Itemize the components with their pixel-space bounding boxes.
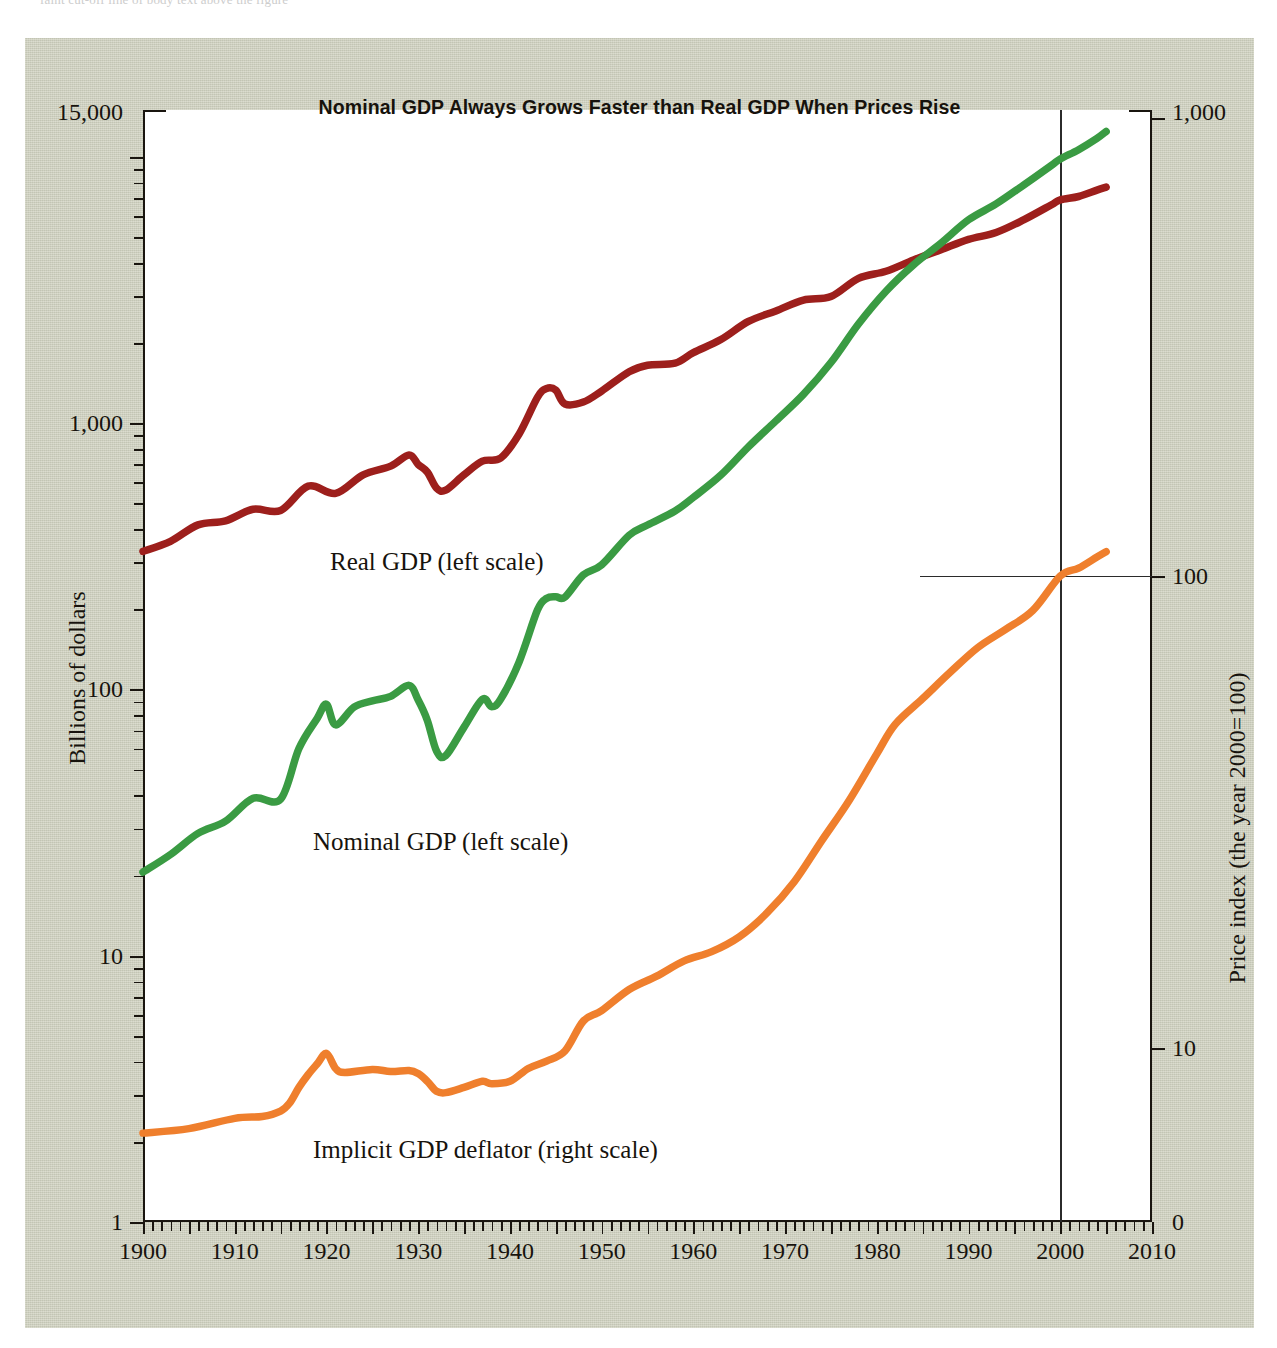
x-tick xyxy=(381,1222,383,1231)
x-tick xyxy=(923,1222,925,1234)
x-tick xyxy=(1051,1222,1053,1231)
y-tick-left xyxy=(134,1142,143,1144)
y-tick-left xyxy=(134,343,143,345)
x-tick xyxy=(620,1222,622,1231)
y-tick-left xyxy=(134,749,143,751)
y-tick-left xyxy=(134,715,143,717)
x-tick xyxy=(235,1222,237,1234)
x-axis-label: 1990 xyxy=(945,1238,993,1265)
x-tick xyxy=(978,1222,980,1231)
y-tick-right xyxy=(1152,1048,1165,1050)
x-tick xyxy=(794,1222,796,1231)
x-tick xyxy=(391,1222,393,1231)
x-tick xyxy=(253,1222,255,1231)
x-tick xyxy=(703,1222,705,1231)
x-axis-label: 2000 xyxy=(1036,1238,1084,1265)
x-tick xyxy=(849,1222,851,1231)
x-tick xyxy=(840,1222,842,1231)
x-tick xyxy=(152,1222,154,1231)
x-tick xyxy=(216,1222,218,1231)
y-tick-left xyxy=(134,702,143,704)
y-tick-left xyxy=(134,183,143,185)
x-tick xyxy=(950,1222,952,1231)
x-tick xyxy=(1106,1222,1108,1234)
y-tick-left xyxy=(134,876,143,878)
x-tick xyxy=(271,1222,273,1231)
y-tick-left xyxy=(130,689,143,691)
x-tick xyxy=(785,1222,787,1234)
x-tick xyxy=(464,1222,466,1234)
y-tick-left xyxy=(134,296,143,298)
x-tick xyxy=(1115,1222,1117,1231)
y-axis-label-right: 100 xyxy=(1172,563,1208,590)
x-tick xyxy=(574,1222,576,1231)
x-tick xyxy=(482,1222,484,1231)
x-tick xyxy=(262,1222,264,1231)
x-tick xyxy=(547,1222,549,1231)
y-axis-title-left: Billions of dollars xyxy=(64,591,91,764)
x-tick xyxy=(143,1222,145,1234)
x-tick xyxy=(446,1222,448,1231)
y-tick-left xyxy=(134,1015,143,1017)
y-tick-left xyxy=(130,956,143,958)
x-axis-label: 1960 xyxy=(669,1238,717,1265)
x-tick xyxy=(941,1222,943,1231)
x-tick xyxy=(418,1222,420,1234)
x-tick xyxy=(1060,1222,1062,1234)
y-tick-left xyxy=(134,263,143,265)
x-axis-label: 1910 xyxy=(211,1238,259,1265)
x-tick xyxy=(455,1222,457,1231)
x-tick xyxy=(602,1222,604,1234)
x-tick xyxy=(611,1222,613,1231)
x-tick xyxy=(721,1222,723,1231)
series-line-deflator xyxy=(143,552,1106,1133)
x-tick xyxy=(226,1222,228,1231)
x-tick xyxy=(1042,1222,1044,1231)
x-axis-label: 1950 xyxy=(578,1238,626,1265)
y-axis-label-right: 10 xyxy=(1172,1035,1196,1062)
x-tick xyxy=(895,1222,897,1231)
x-tick xyxy=(868,1222,870,1231)
x-tick xyxy=(345,1222,347,1231)
x-tick xyxy=(372,1222,374,1234)
x-tick xyxy=(519,1222,521,1231)
y-axis-title-right: Price index (the year 2000=100) xyxy=(1224,673,1251,984)
series-line-real-gdp xyxy=(143,187,1106,551)
x-tick xyxy=(1033,1222,1035,1231)
y-tick-left xyxy=(134,997,143,999)
x-tick xyxy=(171,1222,173,1231)
x-tick xyxy=(987,1222,989,1231)
x-tick xyxy=(583,1222,585,1231)
x-tick xyxy=(1079,1222,1081,1231)
x-tick xyxy=(1069,1222,1071,1231)
x-axis-label: 1920 xyxy=(302,1238,350,1265)
x-tick xyxy=(161,1222,163,1231)
chart-title: Nominal GDP Always Grows Faster than Rea… xyxy=(25,96,1254,119)
x-tick xyxy=(473,1222,475,1231)
x-tick xyxy=(308,1222,310,1231)
y-tick-left xyxy=(134,1036,143,1038)
x-tick xyxy=(1152,1222,1154,1234)
x-tick xyxy=(877,1222,879,1234)
x-tick xyxy=(959,1222,961,1231)
x-axis-label: 1980 xyxy=(853,1238,901,1265)
x-tick xyxy=(363,1222,365,1231)
x-tick xyxy=(1024,1222,1026,1231)
y-axis-label-left: 1 xyxy=(111,1209,123,1236)
x-tick xyxy=(510,1222,512,1234)
x-tick xyxy=(675,1222,677,1231)
x-tick xyxy=(409,1222,411,1231)
y-tick-left xyxy=(134,795,143,797)
x-tick xyxy=(932,1222,934,1231)
series-annotation-nominal-gdp: Nominal GDP (left scale) xyxy=(313,828,568,856)
y-tick-left xyxy=(134,982,143,984)
x-tick xyxy=(299,1222,301,1231)
x-axis-label: 1940 xyxy=(486,1238,534,1265)
x-axis-label: 2010 xyxy=(1128,1238,1176,1265)
x-tick xyxy=(207,1222,209,1231)
x-tick xyxy=(767,1222,769,1231)
y-tick-left xyxy=(134,169,143,171)
x-tick xyxy=(996,1222,998,1231)
x-tick xyxy=(914,1222,916,1231)
y-tick-left xyxy=(134,562,143,564)
